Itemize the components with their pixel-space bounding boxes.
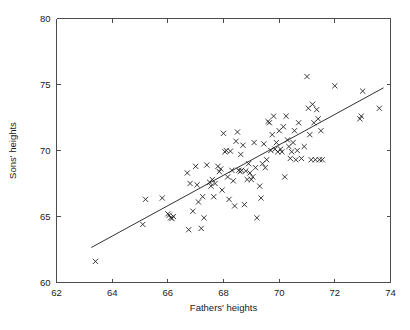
data-point-marker bbox=[252, 140, 257, 145]
data-point-marker bbox=[196, 199, 201, 204]
data-point-marker bbox=[194, 182, 199, 187]
data-point-marker bbox=[228, 149, 233, 154]
data-point-marker bbox=[232, 203, 237, 208]
x-tick-label: 72 bbox=[330, 287, 341, 298]
x-tick-label: 66 bbox=[163, 287, 174, 298]
data-point-marker bbox=[264, 157, 269, 162]
data-point-marker bbox=[288, 156, 293, 161]
y-tick-label: 60 bbox=[40, 277, 51, 288]
data-point-marker bbox=[282, 174, 287, 179]
data-point-marker bbox=[211, 194, 216, 199]
data-point-marker bbox=[360, 89, 365, 94]
data-point-marker bbox=[270, 132, 275, 137]
y-tick-label: 70 bbox=[40, 145, 51, 156]
data-point-marker bbox=[263, 165, 268, 170]
data-point-marker bbox=[296, 120, 301, 125]
data-point-marker bbox=[160, 195, 165, 200]
data-point-marker bbox=[193, 164, 198, 169]
data-point-marker bbox=[292, 128, 297, 133]
data-point-marker bbox=[289, 149, 294, 154]
data-points-group bbox=[93, 74, 382, 264]
data-point-marker bbox=[317, 157, 322, 162]
data-point-marker bbox=[261, 141, 266, 146]
data-point-marker bbox=[302, 144, 307, 149]
y-axis-title: Sons' heights bbox=[7, 122, 18, 179]
data-point-marker bbox=[235, 129, 240, 134]
regression-line bbox=[91, 88, 383, 248]
scatter-plot-canvas: 626466687072746065707580 Fathers' height… bbox=[0, 0, 410, 330]
data-point-marker bbox=[290, 140, 295, 145]
data-point-marker bbox=[318, 128, 323, 133]
data-point-marker bbox=[307, 132, 312, 137]
data-point-marker bbox=[201, 215, 206, 220]
data-point-marker bbox=[271, 114, 276, 119]
data-point-marker bbox=[267, 120, 272, 125]
data-point-marker bbox=[314, 107, 319, 112]
data-point-marker bbox=[93, 259, 98, 264]
data-point-marker bbox=[293, 157, 298, 162]
data-point-marker bbox=[240, 143, 245, 148]
x-tick-label: 74 bbox=[385, 287, 396, 298]
x-tick-label: 64 bbox=[107, 287, 118, 298]
y-tick-label: 65 bbox=[40, 211, 51, 222]
x-tick-label: 68 bbox=[218, 287, 229, 298]
data-point-marker bbox=[310, 102, 315, 107]
data-point-marker bbox=[257, 184, 262, 189]
data-point-marker bbox=[225, 174, 230, 179]
data-point-marker bbox=[140, 222, 145, 227]
y-tick-label: 80 bbox=[40, 13, 51, 24]
data-point-marker bbox=[220, 188, 225, 193]
data-point-marker bbox=[320, 157, 325, 162]
data-point-marker bbox=[332, 83, 337, 88]
data-point-marker bbox=[231, 178, 236, 183]
data-point-marker bbox=[316, 116, 321, 121]
x-axis-title: Fathers' heights bbox=[190, 302, 258, 313]
x-tick-label: 70 bbox=[274, 287, 285, 298]
data-point-marker bbox=[238, 152, 243, 157]
y-tick-label: 75 bbox=[40, 79, 51, 90]
data-point-marker bbox=[186, 227, 191, 232]
data-point-marker bbox=[254, 215, 259, 220]
data-point-marker bbox=[188, 181, 193, 186]
regression-line-path bbox=[91, 88, 383, 248]
data-point-marker bbox=[229, 168, 234, 173]
x-tick-label: 62 bbox=[51, 287, 62, 298]
data-point-marker bbox=[226, 197, 231, 202]
data-point-marker bbox=[204, 162, 209, 167]
data-point-marker bbox=[233, 139, 238, 144]
data-point-marker bbox=[185, 170, 190, 175]
data-point-marker bbox=[258, 195, 263, 200]
data-point-marker bbox=[299, 156, 304, 161]
data-point-marker bbox=[200, 194, 205, 199]
data-point-marker bbox=[274, 140, 279, 145]
scatter-plot-figure: 626466687072746065707580 Fathers' height… bbox=[0, 0, 410, 330]
data-point-marker bbox=[377, 106, 382, 111]
data-point-marker bbox=[304, 74, 309, 79]
data-point-marker bbox=[242, 202, 247, 207]
data-point-marker bbox=[284, 114, 289, 119]
data-point-marker bbox=[190, 209, 195, 214]
data-point-marker bbox=[221, 131, 226, 136]
data-point-marker bbox=[295, 148, 300, 153]
tick-labels-group: 626466687072746065707580 bbox=[40, 13, 396, 298]
data-point-marker bbox=[143, 197, 148, 202]
data-point-marker bbox=[285, 137, 290, 142]
data-point-marker bbox=[281, 124, 286, 129]
data-point-marker bbox=[199, 226, 204, 231]
data-point-marker bbox=[253, 165, 258, 170]
